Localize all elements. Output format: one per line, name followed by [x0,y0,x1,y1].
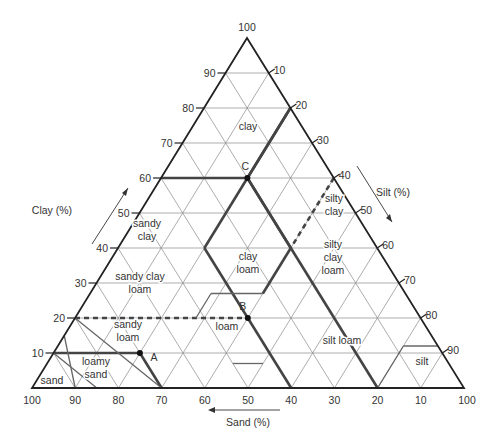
class-label-clay: clay [239,120,258,132]
clay-tick-label: 50 [118,207,130,219]
sample-point-C [244,175,250,181]
class-label-silty-clay: silty [325,192,344,204]
silt-arrow-head-icon [386,214,392,222]
class-label-sand: sand [41,374,64,386]
clay-tick-label: 40 [96,242,108,254]
class-label-sandy-clay: clay [138,230,157,242]
class-label-silt: silt [416,355,429,367]
sand-tick-label: 10 [415,394,427,406]
silt-tick-label: 50 [361,204,373,216]
clay-tick-label: 70 [161,137,173,149]
class-label-silty-clay-loam: clay [324,251,343,263]
silt-tick-label: 90 [447,344,459,356]
class-label-loamy-sand: sand [85,368,108,380]
silt-tick-label: 100 [458,394,476,406]
clay-tick-label: 30 [75,277,87,289]
silt-tick-label: 30 [317,134,329,146]
class-label-sandy-clay-loam: sandy clay [115,270,165,282]
sand-tick-label: 90 [69,394,81,406]
sample-point-label: B [239,300,246,312]
sand-tick-label: 80 [113,394,125,406]
silt-tick-label: 70 [404,274,416,286]
sand-tick-label: 20 [372,394,384,406]
clay-arrow-head-icon [122,188,128,196]
clay-axis-title: Clay (%) [32,204,72,216]
silt-tick-label: 20 [295,99,307,111]
class-label-loam: loam [216,320,239,332]
clay-tick-label: 100 [238,21,256,33]
sand-tick-label: 100 [23,394,41,406]
silt-axis-title: Silt (%) [376,186,410,198]
sample-point-A [137,350,143,356]
class-label-sandy-clay-loam: loam [129,283,152,295]
sand-tick-label: 40 [285,394,297,406]
silt-tick-label: 40 [339,169,351,181]
class-label-sandy-clay: sandy [133,217,162,229]
clay-tick-label: 10 [32,347,44,359]
clay-tick-label: 60 [139,172,151,184]
class-label-silty-clay-loam: silty [324,238,343,250]
class-label-silty-clay-loam: loam [322,264,345,276]
class-label-sandy-loam: loam [117,331,140,343]
silt-tick-label: 60 [382,239,394,251]
boundary-line [196,294,211,319]
boundary-line [263,248,291,294]
silt-tick-label: 10 [274,64,286,76]
clay-tick-label: 80 [182,102,194,114]
clay-tick-label: 90 [204,67,216,79]
sample-point-B [245,315,251,321]
sand-tick-label: 70 [156,394,168,406]
sand-tick-label: 50 [242,394,254,406]
sand-tick-label: 60 [199,394,211,406]
sample-point-label: C [242,160,250,172]
boundary-line [378,346,404,388]
sample-point-label: A [150,351,157,363]
class-label-clay-loam: clay [239,250,258,262]
clay-tick-label: 20 [53,312,65,324]
sand-tick-label: 30 [329,394,341,406]
class-label-loamy-sand: loamy [82,355,111,367]
soil-texture-triangle: 1020304050607080901001020304050607080901… [0,0,501,445]
class-label-sandy-loam: sandy [114,318,143,330]
silt-tick-label: 80 [426,309,438,321]
class-label-clay-loam: loam [237,263,260,275]
boundary-line [64,336,75,389]
sand-arrow-head-icon [208,407,215,413]
triangle-chart: 1020304050607080901001020304050607080901… [0,0,501,445]
class-label-silty-clay: clay [325,205,344,217]
sand-axis-title: Sand (%) [226,416,270,428]
class-label-silt-loam: silt loam [323,334,362,346]
